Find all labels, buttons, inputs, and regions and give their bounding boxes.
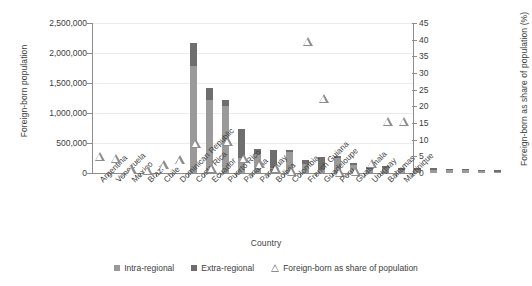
y-axis-right-tick-label: 40: [419, 35, 428, 45]
share-marker-triangle-inner: [320, 96, 326, 102]
legend-item-label: Intra-regional: [124, 263, 174, 273]
y-axis-right-tick-label: 35: [419, 51, 428, 61]
share-marker-triangle-inner: [96, 154, 102, 160]
y-axis-right-tick-label: 30: [419, 68, 428, 78]
share-marker-triangle-inner: [224, 139, 230, 145]
share-marker-triangle-inner: [192, 141, 198, 147]
y-axis-left-tick-label: 1,500,000: [49, 78, 92, 88]
share-marker-triangle: [367, 159, 377, 168]
share-marker-triangle-inner: [304, 39, 310, 45]
gridline: [93, 23, 413, 24]
legend-item-label: Extra-regional: [201, 263, 254, 273]
bar-segment-extra-regional: [222, 100, 229, 106]
gridline: [93, 83, 413, 84]
bar-segment-extra-regional: [190, 43, 197, 65]
y-axis-left-tick-label: 2,000,000: [49, 48, 92, 58]
share-marker-triangle: [383, 117, 393, 126]
gridline: [93, 113, 413, 114]
y-axis-right-tick-label: 15: [419, 118, 428, 128]
share-marker-triangle-inner: [400, 119, 406, 125]
share-marker-triangle-inner: [112, 156, 118, 162]
legend-swatch-square-icon: [191, 265, 197, 271]
share-marker-triangle-inner: [208, 166, 214, 172]
share-marker-triangle: [191, 139, 201, 148]
legend-swatch-triangle-icon: [271, 264, 279, 272]
share-marker-triangle: [255, 159, 265, 168]
share-marker-triangle-inner: [176, 158, 182, 164]
legend-item[interactable]: Foreign-born as share of population: [271, 263, 418, 273]
bar-segment-extra-regional: [206, 88, 213, 100]
share-marker-triangle-inner: [128, 168, 134, 174]
y-axis-right-tick-mark: [412, 106, 417, 107]
y-axis-right-tick-mark: [412, 73, 417, 74]
share-marker-triangle-inner: [368, 161, 374, 167]
y-axis-right-tick-mark: [412, 56, 417, 57]
share-marker-triangle: [239, 154, 249, 163]
chart-legend: Intra-regionalExtra-regionalForeign-born…: [0, 263, 532, 273]
bar-stack: [190, 43, 197, 173]
y-axis-right-tick-label: 25: [419, 85, 428, 95]
share-marker-triangle: [319, 94, 329, 103]
share-marker-triangle-inner: [240, 156, 246, 162]
y-axis-right-tick-mark: [412, 23, 417, 24]
y-axis-left-tick-label: 1,000,000: [49, 108, 92, 118]
y-axis-left: 0500,0001,000,0001,500,0002,000,0002,500…: [0, 0, 92, 200]
share-marker-triangle: [175, 155, 185, 164]
legend-swatch-square-icon: [114, 265, 120, 271]
share-marker-triangle-inner: [272, 166, 278, 172]
gridline: [93, 53, 413, 54]
bar-segment-extra-regional: [350, 163, 357, 165]
share-marker-triangle-inner: [160, 163, 166, 169]
gridline: [93, 143, 413, 144]
y-axis-right-tick-mark: [412, 123, 417, 124]
share-marker-triangle: [159, 160, 169, 169]
y-axis-right-tick-label: 20: [419, 101, 428, 111]
share-marker-triangle-inner: [384, 119, 390, 125]
y-axis-right: 051015202530354045: [412, 0, 532, 200]
x-axis-title: Country: [0, 238, 532, 248]
bar-segment-extra-regional: [286, 150, 293, 152]
share-marker-triangle: [303, 37, 313, 46]
share-marker-triangle: [111, 154, 121, 163]
share-marker-triangle: [95, 152, 105, 161]
y-axis-right-tick-mark: [412, 140, 417, 141]
share-marker-triangle: [399, 117, 409, 126]
legend-item[interactable]: Intra-regional: [114, 263, 174, 273]
y-axis-right-tick-mark: [412, 40, 417, 41]
legend-item[interactable]: Extra-regional: [191, 263, 254, 273]
legend-item-label: Foreign-born as share of population: [283, 263, 418, 273]
share-marker-triangle-inner: [256, 162, 262, 168]
share-marker-triangle: [223, 137, 233, 146]
chart-container: Foreign-born population Foreign-born as …: [0, 0, 532, 286]
bar-segment-intra-regional: [190, 66, 197, 173]
y-axis-right-tick-label: 45: [419, 18, 428, 28]
y-axis-left-tick-label: 2,500,000: [49, 18, 92, 28]
y-axis-right-tick-label: 10: [419, 135, 428, 145]
y-axis-right-tick-mark: [412, 90, 417, 91]
